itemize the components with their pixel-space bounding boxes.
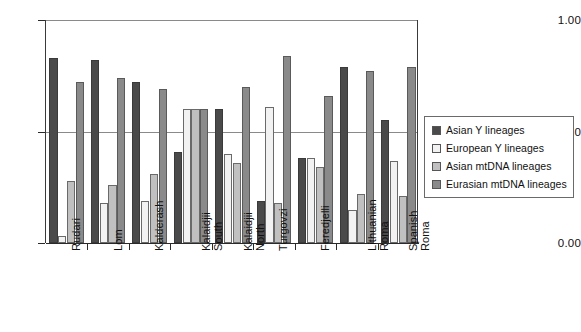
bar [233, 163, 241, 243]
x-axis-category-label: LithuanianRoma [367, 199, 390, 251]
bar [183, 109, 191, 243]
bar-chart: 0.000.501.00 RudariLomKalderashKalaidjii… [0, 0, 581, 332]
bar [340, 67, 348, 243]
legend-swatch-asian-mtdna [432, 162, 441, 171]
x-axis-category-label: Feredjelli [320, 205, 332, 251]
bar-group [87, 20, 128, 243]
x-axis-tick [129, 243, 130, 250]
y-axis-tick-label: 0.00 [547, 237, 581, 249]
x-axis-tick [87, 243, 88, 250]
x-axis-category-label: Lom [113, 229, 125, 251]
x-axis-category-label: Turgovzi [278, 208, 290, 251]
x-axis-category-label: SpanishRoma [408, 211, 431, 251]
legend-label-asian-mtdna: Asian mtDNA lineages [446, 160, 551, 172]
x-axis-category-label: KalaidjiiSouth [201, 212, 224, 251]
bar [117, 78, 125, 243]
bar [390, 161, 398, 244]
bar [49, 58, 57, 243]
legend-item-european-y: European Y lineages [432, 142, 567, 154]
bar [141, 201, 149, 243]
legend-item-asian-y: Asian Y lineages [432, 124, 567, 136]
y-axis-tick [38, 20, 45, 21]
plot-area [45, 20, 418, 243]
legend-label-european-y: European Y lineages [446, 142, 544, 154]
x-axis-tick [336, 243, 337, 250]
y-axis-tick-label: 1.00 [547, 14, 581, 26]
bar [100, 203, 108, 243]
bar [174, 152, 182, 243]
y-axis-tick [38, 243, 45, 244]
legend-label-asian-y: Asian Y lineages [446, 124, 525, 136]
legend-swatch-asian-y [432, 126, 441, 135]
bar [91, 60, 99, 243]
bar-group [170, 20, 211, 243]
bar-group [212, 20, 253, 243]
bar [399, 196, 407, 243]
bar [224, 154, 232, 243]
bar [191, 109, 199, 243]
legend-item-asian-mtdna: Asian mtDNA lineages [432, 160, 567, 172]
bar [298, 158, 306, 243]
legend-swatch-european-y [432, 144, 441, 153]
x-axis-tick [295, 243, 296, 250]
bar-group [46, 20, 87, 243]
x-axis-tick [170, 243, 171, 250]
legend-swatch-eurasian-mtdna [432, 180, 441, 189]
bar [58, 236, 66, 243]
bar [348, 210, 356, 243]
x-axis-category-label: Rudari [71, 218, 83, 251]
legend-label-eurasian-mtdna: Eurasian mtDNA lineages [446, 178, 567, 190]
x-axis-line [46, 243, 419, 244]
bar [132, 82, 140, 243]
legend-item-eurasian-mtdna: Eurasian mtDNA lineages [432, 178, 567, 190]
x-axis-category-label: KalaidjiiNorth [243, 212, 266, 251]
bar [307, 158, 315, 243]
x-axis-category-label: Kalderash [154, 201, 166, 251]
y-axis-tick [38, 132, 45, 133]
legend: Asian Y lineages European Y lineages Asi… [424, 116, 574, 198]
bar [357, 194, 365, 243]
bar [265, 107, 273, 243]
